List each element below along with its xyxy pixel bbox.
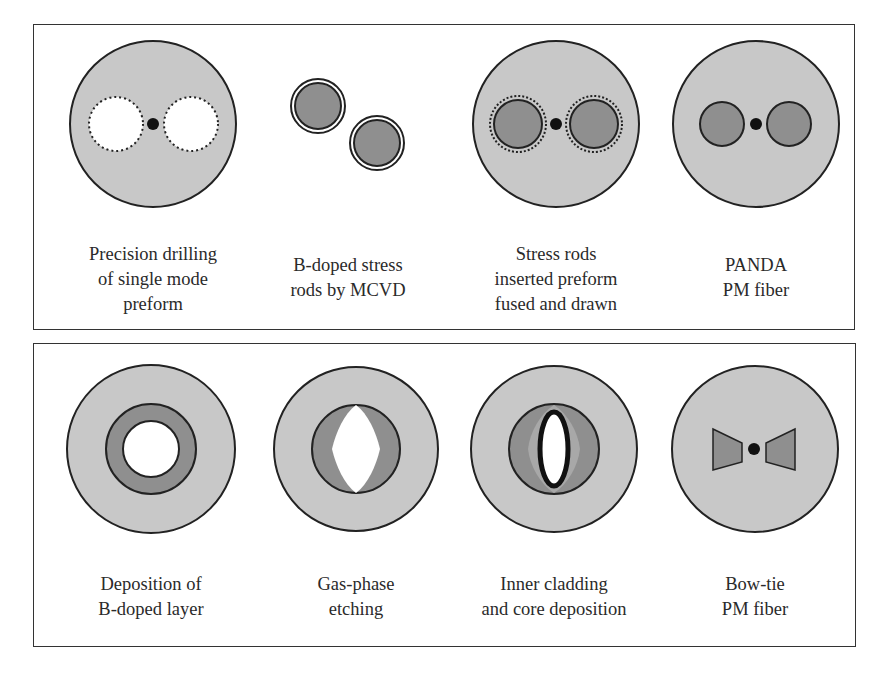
bowtie-fiber-icon [672, 366, 838, 532]
caption-stress-rods: B-doped stress rods by MCVD [248, 253, 448, 303]
caption-line: B-doped layer [51, 597, 251, 622]
caption-line: PANDA [656, 253, 856, 278]
caption-line: etching [256, 597, 456, 622]
caption-inner-cladding: Inner cladding and core deposition [454, 572, 654, 622]
caption-line: Precision drilling [53, 242, 253, 267]
caption-line: preform [53, 292, 253, 317]
caption-line: inserted preform [456, 267, 656, 292]
caption-line: PM fiber [656, 278, 856, 303]
stress-rods-icon [291, 79, 404, 170]
caption-deposition: Deposition of B-doped layer [51, 572, 251, 622]
caption-line: of single mode [53, 267, 253, 292]
caption-line: rods by MCVD [248, 278, 448, 303]
caption-line: Stress rods [456, 242, 656, 267]
caption-bowtie: Bow-tie PM fiber [655, 572, 855, 622]
drilled-preform-icon [70, 41, 236, 207]
caption-line: and core deposition [454, 597, 654, 622]
caption-etching: Gas-phase etching [256, 572, 456, 622]
caption-panda: PANDA PM fiber [656, 253, 856, 303]
caption-line: Gas-phase [256, 572, 456, 597]
caption-drilling: Precision drilling of single mode prefor… [53, 242, 253, 317]
panda-fiber-icon [673, 41, 839, 207]
inserted-preform-icon [473, 41, 639, 207]
gas-phase-etching-icon [274, 367, 438, 531]
caption-line: fused and drawn [456, 292, 656, 317]
caption-line: B-doped stress [248, 253, 448, 278]
caption-line: PM fiber [655, 597, 855, 622]
caption-line: Bow-tie [655, 572, 855, 597]
caption-line: Inner cladding [454, 572, 654, 597]
inner-cladding-icon [471, 366, 637, 532]
caption-inserted: Stress rods inserted preform fused and d… [456, 242, 656, 317]
caption-line: Deposition of [51, 572, 251, 597]
b-doped-layer-icon [67, 365, 235, 533]
